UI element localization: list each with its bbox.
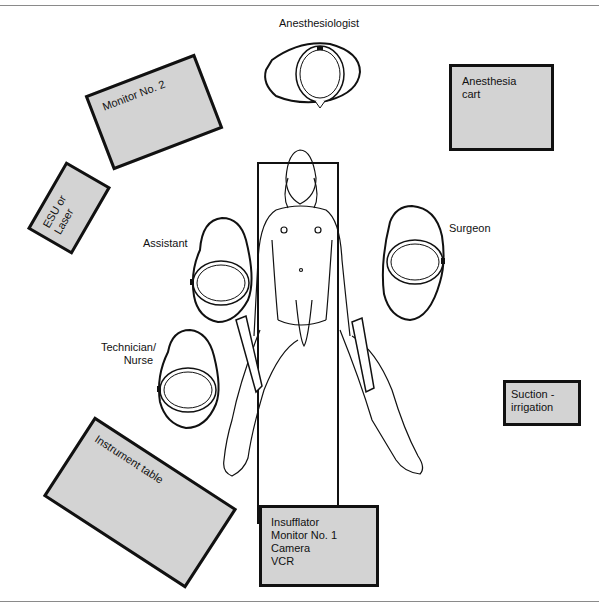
operating-table <box>258 163 338 523</box>
anesthesia-cart: Anesthesia cart <box>449 64 554 151</box>
suction-irrigation: Suction - irrigation <box>503 380 581 426</box>
technician-label: Technician/ Nurse <box>101 341 153 367</box>
anesthesia-cart-line2: cart <box>462 88 541 101</box>
technician-label-line1: Technician/ <box>101 341 153 354</box>
equipment-tower: Insufflator Monitor No. 1 Camera VCR <box>259 505 379 587</box>
right-leg-support <box>352 318 374 392</box>
suction-line1: Suction - <box>511 388 573 401</box>
anesthesiologist-figure <box>265 43 360 108</box>
suction-line2: irrigation <box>511 401 573 414</box>
anesthesiologist-label: Anesthesiologist <box>279 17 359 30</box>
tower-insufflator: Insufflator <box>271 516 367 529</box>
assistant-figure <box>190 218 252 322</box>
surgeon-label: Surgeon <box>449 222 491 235</box>
anesthesia-cart-line1: Anesthesia <box>462 75 541 88</box>
technician-label-line2: Nurse <box>101 354 153 367</box>
surgeon-figure <box>383 206 445 320</box>
technician-figure <box>157 330 219 428</box>
tower-camera: Camera <box>271 542 367 555</box>
assistant-label: Assistant <box>143 237 188 250</box>
tower-monitor-1: Monitor No. 1 <box>271 529 367 542</box>
tower-vcr: VCR <box>271 555 367 568</box>
